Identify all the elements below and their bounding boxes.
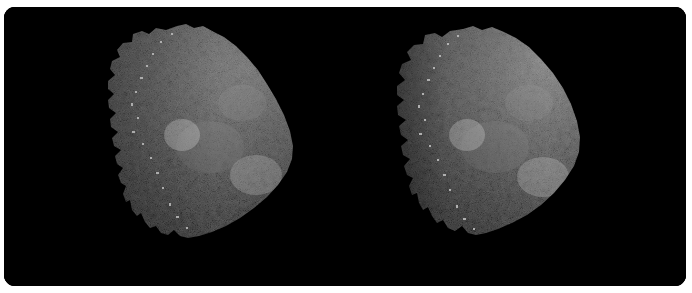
stereo-frame-right: [345, 7, 686, 286]
asteroid-body-right: [345, 7, 686, 286]
screenshot-viewport: [0, 0, 692, 293]
asteroid-left-render: [4, 7, 345, 286]
stereo-frame-left: [4, 7, 345, 286]
asteroid-right-render: [345, 7, 686, 286]
asteroid-body-left: [4, 7, 345, 286]
stereo-pair-panel: [4, 7, 686, 286]
